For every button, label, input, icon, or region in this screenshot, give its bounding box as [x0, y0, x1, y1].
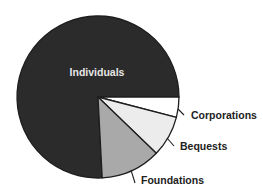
label-corporations: Corporations	[191, 109, 257, 121]
label-individuals: Individuals	[70, 66, 125, 78]
pie-chart: Individuals Corporations Bequests Founda…	[0, 0, 263, 195]
leader-line-corporations	[178, 109, 184, 115]
leader-line-foundations	[131, 170, 135, 183]
label-foundations: Foundations	[141, 174, 204, 186]
label-bequests: Bequests	[180, 140, 227, 152]
leader-line-bequests	[167, 138, 174, 146]
